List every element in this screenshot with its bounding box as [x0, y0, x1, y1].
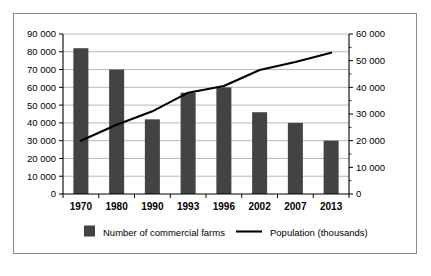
left-axis-tick-label: 0	[51, 188, 56, 199]
x-axis-label-2013: 2013	[320, 201, 343, 212]
right-axis-tick-label: 40 000	[356, 82, 385, 93]
bar-1980	[109, 70, 124, 194]
x-axis-label-1993: 1993	[177, 201, 200, 212]
chart-plot-area: 010 00020 00030 00040 00050 00060 00070 …	[14, 14, 418, 255]
right-axis-tick-label: 0	[356, 188, 361, 199]
left-axis-tick-label: 30 000	[27, 135, 56, 146]
right-axis-tick-label: 30 000	[356, 108, 385, 119]
x-axis-label-1990: 1990	[141, 201, 164, 212]
bar-1990	[145, 119, 160, 194]
x-axis-label-1996: 1996	[213, 201, 236, 212]
legend-label-farms: Number of commercial farms	[103, 227, 225, 238]
right-axis-tick-label: 60 000	[356, 28, 385, 39]
bar-1970	[73, 48, 88, 194]
left-axis-tick-label: 90 000	[27, 28, 56, 39]
right-axis-tick-label: 50 000	[356, 55, 385, 66]
left-axis-tick-label: 50 000	[27, 100, 56, 111]
bar-2002	[252, 112, 267, 194]
chart-frame: 010 00020 00030 00040 00050 00060 00070 …	[13, 13, 417, 254]
x-axis-label-1970: 1970	[70, 201, 93, 212]
bar-1996	[216, 87, 231, 194]
right-axis-tick-label: 20 000	[356, 135, 385, 146]
left-axis-tick-label: 80 000	[27, 46, 56, 57]
bar-1993	[181, 93, 196, 194]
right-axis-tick-label: 10 000	[356, 162, 385, 173]
left-axis-tick-label: 20 000	[27, 153, 56, 164]
left-axis-tick-label: 10 000	[27, 171, 56, 182]
legend-label-population: Population (thousands)	[270, 227, 368, 238]
left-axis-tick-label: 60 000	[27, 82, 56, 93]
bar-2007	[288, 123, 303, 194]
left-axis-tick-label: 70 000	[27, 64, 56, 75]
left-axis-tick-label: 40 000	[27, 117, 56, 128]
x-axis-label-1980: 1980	[106, 201, 129, 212]
bar-2013	[324, 141, 339, 194]
combo-chart: 010 00020 00030 00040 00050 00060 00070 …	[14, 14, 418, 255]
x-axis-label-2007: 2007	[284, 201, 307, 212]
legend-swatch-farms	[84, 226, 95, 237]
x-axis-label-2002: 2002	[249, 201, 272, 212]
